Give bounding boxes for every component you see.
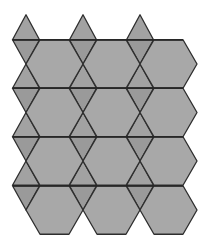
triangle-top: [127, 15, 154, 40]
tiles-group: [13, 15, 198, 235]
tiling-diagram: [0, 0, 210, 251]
triangle-top: [70, 15, 97, 40]
triangle-top: [13, 15, 40, 40]
